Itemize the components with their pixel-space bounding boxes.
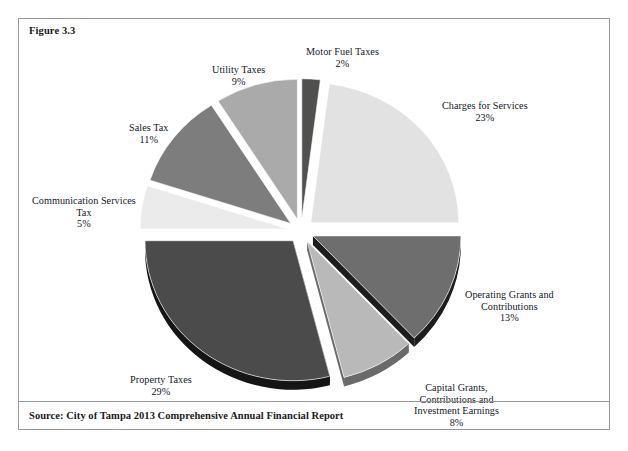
pie-chart: Motor Fuel Taxes2%Charges for Services23… — [19, 19, 611, 431]
pie-slice[interactable] — [145, 241, 330, 390]
source-note: Source: City of Tampa 2013 Comprehensive… — [29, 410, 343, 421]
pie-slice-label-line: Contributions — [465, 301, 554, 313]
pie-slice-percent: 23% — [442, 112, 528, 124]
pie-slice-label: Operating Grants andContributions13% — [465, 289, 554, 324]
pie-slice-group — [140, 79, 461, 390]
pie-slice-label: Capital Grants,Contributions andInvestme… — [414, 382, 499, 428]
pie-slice-label-line: Utility Taxes — [212, 64, 265, 76]
pie-slice-label-line: Investment Earnings — [414, 405, 499, 417]
pie-slice-label: Utility Taxes9% — [212, 64, 265, 87]
pie-slice-label: Sales Tax11% — [129, 122, 168, 145]
pie-slice-label: Property Taxes29% — [130, 374, 192, 397]
pie-slice-label-line: Tax — [32, 207, 136, 219]
pie-slice-percent: 29% — [130, 386, 192, 398]
pie-slice-top[interactable] — [145, 241, 330, 381]
pie-slice-percent: 9% — [212, 76, 265, 88]
pie-slice-label-line: Communication Services — [32, 195, 136, 207]
pie-slice-label-line: Property Taxes — [130, 374, 192, 386]
pie-slice[interactable] — [311, 84, 459, 223]
pie-slice-label-line: Motor Fuel Taxes — [306, 46, 379, 58]
pie-slice-label: Motor Fuel Taxes2% — [306, 46, 379, 69]
pie-slice-percent: 5% — [32, 218, 136, 230]
pie-slice-label-line: Operating Grants and — [465, 289, 554, 301]
page-top-cutoff-text — [66, 0, 486, 8]
source-divider — [19, 401, 609, 402]
figure-container: Figure 3.3 Motor Fuel Taxes2%Charges for… — [18, 18, 610, 430]
pie-slice-percent: 8% — [414, 417, 499, 429]
pie-slice-label-line: Charges for Services — [442, 100, 528, 112]
pie-slice-label-line: Capital Grants, — [414, 382, 499, 394]
pie-slice-percent: 2% — [306, 58, 379, 70]
pie-slice-top[interactable] — [311, 84, 459, 223]
pie-slice-percent: 11% — [129, 134, 168, 146]
pie-slice-percent: 13% — [465, 312, 554, 324]
pie-slice-label-line: Contributions and — [414, 394, 499, 406]
pie-slice-label: Charges for Services23% — [442, 100, 528, 123]
pie-slice-label-line: Sales Tax — [129, 122, 168, 134]
pie-slice-label: Communication ServicesTax5% — [32, 195, 136, 230]
